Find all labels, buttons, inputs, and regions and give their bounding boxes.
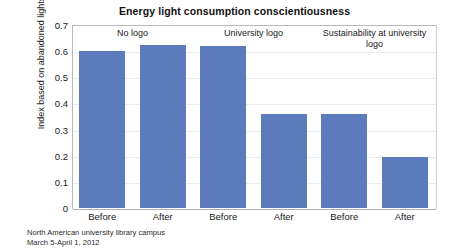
x-axis-tick-labels: BeforeAfterBeforeAfterBeforeAfter bbox=[72, 211, 435, 225]
y-axis-tick-label: 0.2 bbox=[44, 150, 68, 161]
bar bbox=[140, 45, 186, 208]
bar-chart: Energy light consumption conscientiousne… bbox=[0, 0, 469, 252]
y-axis-tick-labels: 0.70.60.50.40.30.20.10 bbox=[40, 25, 68, 208]
y-axis-tick-label: 0.5 bbox=[44, 72, 68, 83]
group-header-label: No logo bbox=[72, 28, 193, 39]
x-axis-tick-label: Before bbox=[193, 211, 254, 222]
y-axis-tick-label: 0.4 bbox=[44, 98, 68, 109]
bar bbox=[200, 46, 246, 208]
bar bbox=[382, 157, 428, 208]
chart-title: Energy light consumption conscientiousne… bbox=[0, 5, 469, 17]
x-axis-tick-label: Before bbox=[314, 211, 375, 222]
footnote-line-2: March 5-April 1, 2012 bbox=[27, 238, 165, 248]
x-axis-line bbox=[73, 209, 436, 210]
y-axis-tick-label: 0.7 bbox=[44, 20, 68, 31]
x-axis-tick-label: After bbox=[254, 211, 315, 222]
group-headers: No logoUniversity logoSustainability at … bbox=[72, 28, 435, 54]
footnote-line-1: North American university library campus bbox=[27, 228, 165, 238]
x-axis-tick-label: Before bbox=[72, 211, 133, 222]
y-axis-tick-label: 0.1 bbox=[44, 176, 68, 187]
y-axis-tick-label: 0.6 bbox=[44, 46, 68, 57]
group-header-label: University logo bbox=[193, 28, 314, 39]
group-header-label: Sustainability at university logo bbox=[314, 28, 435, 50]
bar bbox=[261, 114, 307, 208]
chart-footnote: North American university library campus… bbox=[27, 228, 165, 247]
y-axis-tick-label: 0.3 bbox=[44, 124, 68, 135]
bar bbox=[79, 51, 125, 208]
y-axis-tick-label: 0 bbox=[44, 203, 68, 214]
x-axis-tick-label: After bbox=[133, 211, 194, 222]
bar bbox=[321, 114, 367, 208]
x-axis-tick-label: After bbox=[375, 211, 436, 222]
